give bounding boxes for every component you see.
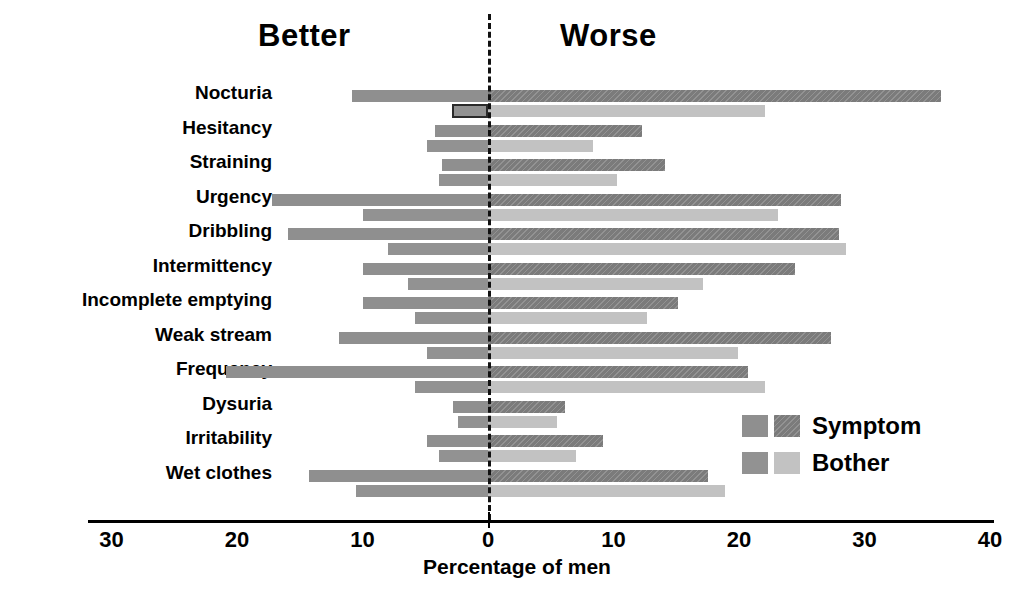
bar-bother-better (408, 278, 488, 290)
bar-symptom-better (435, 125, 488, 137)
bar-symptom-better (363, 263, 489, 275)
bar-symptom-better (363, 297, 489, 309)
bar-bother-better (439, 450, 488, 462)
x-tick-label: 30 (99, 527, 123, 553)
bar-symptom-better (288, 228, 488, 240)
bar-bother-worse (488, 278, 703, 290)
bar-bother-worse (488, 381, 765, 393)
bar-bother-better (427, 347, 488, 359)
bar-bother-worse (488, 485, 725, 497)
bar-symptom-better (427, 435, 488, 447)
x-tick-label: 30 (852, 527, 876, 553)
bar-bother-better (415, 312, 488, 324)
bar-bother-worse (488, 209, 778, 221)
legend-item: Symptom (742, 412, 921, 440)
bar-symptom-worse (488, 125, 642, 137)
legend-label: Symptom (812, 412, 921, 440)
bar-bother-better (427, 140, 488, 152)
zero-reference-line (488, 14, 491, 520)
x-tick-label: 20 (727, 527, 751, 553)
legend-swatch-better (742, 415, 768, 437)
bar-symptom-worse (488, 435, 603, 447)
bar-bother-better (439, 174, 488, 186)
bar-symptom-worse (488, 470, 708, 482)
bar-bother-worse (488, 312, 647, 324)
bar-symptom-worse (488, 228, 839, 240)
highlight-box-annotation (452, 104, 488, 118)
x-tick-label: 0 (482, 527, 494, 553)
bar-symptom-worse (488, 297, 678, 309)
legend-swatch-worse (774, 415, 800, 437)
bar-symptom-better (226, 366, 488, 378)
bar-symptom-worse (488, 159, 665, 171)
bar-symptom-better (339, 332, 488, 344)
plot-area (0, 0, 1034, 608)
bar-symptom-worse (488, 194, 841, 206)
bar-bother-better (458, 416, 488, 428)
bar-bother-better (415, 381, 488, 393)
diverging-bar-chart: Better Worse NocturiaHesitancyStrainingU… (0, 0, 1034, 608)
x-tick-label: 10 (350, 527, 374, 553)
bar-bother-worse (488, 140, 593, 152)
legend-swatch-better (742, 452, 768, 474)
x-axis-title: Percentage of men (0, 555, 1034, 579)
x-tick-label: 10 (601, 527, 625, 553)
x-tick-label: 40 (978, 527, 1002, 553)
bar-bother-worse (488, 105, 765, 117)
bar-symptom-better (453, 401, 488, 413)
bar-symptom-worse (488, 366, 748, 378)
bar-bother-worse (488, 174, 617, 186)
chart-legend: SymptomBother (742, 412, 921, 486)
legend-label: Bother (812, 449, 889, 477)
bar-symptom-better (272, 194, 488, 206)
bar-symptom-better (352, 90, 488, 102)
bar-bother-worse (488, 347, 738, 359)
x-axis-line (88, 520, 994, 523)
x-tick-label: 20 (225, 527, 249, 553)
bar-symptom-worse (488, 90, 941, 102)
legend-item: Bother (742, 449, 921, 477)
bar-bother-better (356, 485, 488, 497)
bar-bother-better (363, 209, 489, 221)
bar-bother-worse (488, 416, 557, 428)
bar-symptom-worse (488, 401, 565, 413)
bar-symptom-better (442, 159, 488, 171)
x-axis-zero-tick (488, 512, 490, 528)
bar-bother-better (388, 243, 488, 255)
bar-symptom-worse (488, 263, 795, 275)
bar-symptom-worse (488, 332, 831, 344)
bar-bother-worse (488, 450, 576, 462)
bar-bother-worse (488, 243, 846, 255)
bar-symptom-better (309, 470, 488, 482)
legend-swatch-worse (774, 452, 800, 474)
